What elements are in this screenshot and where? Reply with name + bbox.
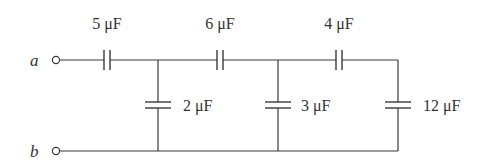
capacitor-6uF <box>217 50 223 70</box>
capacitor-3uF <box>265 102 291 108</box>
capacitor-4uF <box>336 50 342 70</box>
capacitor-12uF <box>385 102 411 108</box>
capacitor-label: 4 μF <box>324 15 354 33</box>
capacitor-label: 6 μF <box>205 15 235 33</box>
terminal-b <box>52 147 59 154</box>
circuit-diagram: a b 5 μF 6 μF 4 μF 2 μF 3 μF <box>0 0 495 168</box>
terminal-a-label: a <box>30 51 39 70</box>
capacitor-5uF <box>104 50 110 70</box>
terminal-a <box>52 56 59 63</box>
capacitor-label: 2 μF <box>183 97 213 115</box>
capacitor-label: 3 μF <box>301 97 331 115</box>
capacitor-2uF <box>145 102 171 108</box>
terminal-b-label: b <box>30 142 39 161</box>
capacitor-label: 5 μF <box>92 15 122 33</box>
capacitor-label: 12 μF <box>423 97 461 115</box>
